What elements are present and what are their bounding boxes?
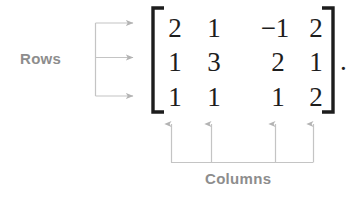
matrix-cell-r2c3: 2 [265, 49, 291, 76]
rows-annotation-group [96, 23, 134, 96]
matrix-cell-r1c3: −1 [252, 15, 298, 42]
rows-label: Rows [20, 50, 61, 67]
matrix-cell-r1c4: 2 [303, 15, 329, 42]
matrix-cell-r2c1: 1 [162, 49, 188, 76]
matrix-cell-r3c2: 1 [201, 84, 227, 111]
matrix-cell-r2c4: 1 [303, 49, 329, 76]
matrix-cell-r3c3: 1 [265, 84, 291, 111]
matrix-cell-r1c2: 1 [201, 15, 227, 42]
matrix-cell-r3c4: 2 [303, 84, 329, 111]
matrix-cell-r3c1: 1 [162, 84, 188, 111]
columns-annotation-group [171, 124, 314, 163]
matrix-cell-r2c2: 3 [201, 49, 227, 76]
columns-label: Columns [205, 170, 271, 187]
trailing-period: . [340, 48, 347, 75]
matrix-rows-columns-figure: Rows 2 1 −1 2 1 3 2 1 1 1 1 2 . Columns [0, 0, 364, 199]
matrix-cell-r1c1: 2 [162, 15, 188, 42]
